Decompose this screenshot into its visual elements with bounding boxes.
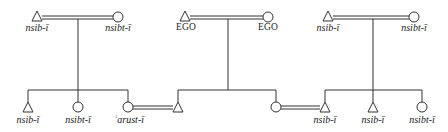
triangle-male-icon: [180, 11, 190, 21]
label-bottom-right-3: nsibt-ī: [409, 114, 435, 125]
circle-female-icon: [271, 102, 281, 112]
circle-female-icon: [263, 12, 273, 22]
label-top-right-male: nsib-ī: [317, 22, 340, 33]
triangle-male-icon: [173, 102, 183, 112]
cross-marriages: [133, 106, 320, 109]
circle-female-icon: [417, 102, 427, 112]
label-ego-female: EGO: [258, 22, 278, 33]
label-top-right-female: nsibt-ī: [401, 22, 427, 33]
label-bottom-right-1: nsib-ī: [314, 114, 337, 125]
circle-female-icon: [409, 12, 419, 22]
label-top-left-male: nsib-ī: [26, 22, 49, 33]
label-bottom-left-3: ʿarust-ī: [114, 114, 144, 125]
circle-female-icon: [123, 102, 133, 112]
label-bottom-right-2: nsib-ī: [362, 114, 385, 125]
label-bottom-left-2: nsibt-ī: [65, 114, 91, 125]
label-top-left-female: nsibt-ī: [105, 22, 131, 33]
triangle-male-icon: [320, 102, 330, 112]
kinship-diagram: [0, 0, 448, 132]
circle-female-icon: [73, 102, 83, 112]
label-ego-male: EGO: [176, 22, 196, 33]
triangle-male-icon: [323, 11, 333, 21]
triangle-male-icon: [23, 102, 33, 112]
triangle-male-icon: [32, 11, 42, 21]
circle-female-icon: [113, 12, 123, 22]
triangle-male-icon: [368, 102, 378, 112]
label-bottom-left-1: nsib-ī: [17, 114, 40, 125]
